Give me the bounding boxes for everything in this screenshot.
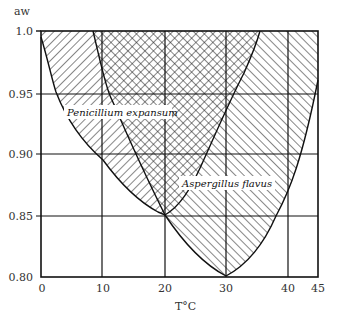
aspergillus-label: Aspergillus flavus [179, 176, 275, 190]
penicillium-label: Penicillium expansum [64, 105, 178, 119]
x-tick: 20 [158, 282, 172, 295]
x-tick: 45 [311, 282, 325, 295]
y-tick: 0.90 [9, 148, 34, 161]
y-tick: 0.95 [9, 88, 34, 101]
y-tick: 0.85 [9, 210, 34, 223]
y-axis-label: aw [14, 5, 31, 18]
x-tick: 40 [281, 282, 295, 295]
svg-text:Penicillium expansum: Penicillium expansum [66, 107, 178, 118]
x-tick: 30 [219, 282, 233, 295]
chart: Penicillium expansum Aspergillus flavus … [0, 0, 360, 318]
x-axis-label: T°C [175, 300, 196, 313]
y-tick: 1.0 [16, 25, 34, 38]
x-tick: 10 [96, 282, 110, 295]
y-tick: 0.80 [9, 271, 34, 284]
svg-text:Aspergillus flavus: Aspergillus flavus [181, 178, 272, 189]
x-tick: 0 [39, 282, 46, 295]
